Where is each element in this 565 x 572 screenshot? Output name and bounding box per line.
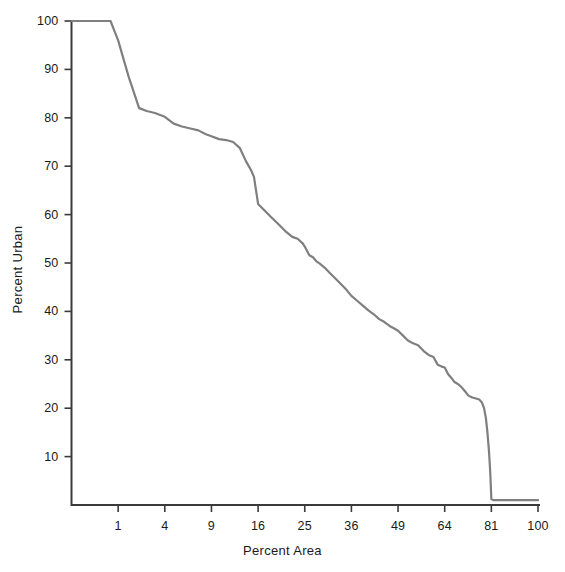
plot-canvas (0, 0, 565, 572)
x-tick-label: 100 (527, 519, 548, 533)
series-line-percent-urban (72, 21, 539, 500)
data-series-group (72, 21, 539, 500)
x-tick-label: 64 (438, 519, 452, 533)
axis-lines (72, 20, 541, 505)
x-tick-marks (118, 505, 538, 512)
y-tick-label: 30 (0, 353, 59, 367)
axis-spine (72, 20, 541, 505)
x-axis-title: Percent Area (0, 543, 565, 558)
x-tick-label: 49 (391, 519, 405, 533)
x-tick-label: 81 (484, 519, 498, 533)
y-tick-label: 70 (0, 159, 59, 173)
chart-figure: 102030405060708090100 149162536496481100… (0, 0, 565, 572)
x-tick-label: 9 (208, 519, 215, 533)
y-tick-marks (65, 21, 72, 457)
y-axis-title: Percent Urban (10, 210, 25, 330)
y-tick-label: 20 (0, 401, 59, 415)
y-tick-label: 80 (0, 111, 59, 125)
y-tick-label: 90 (0, 62, 59, 76)
x-tick-label: 1 (115, 519, 122, 533)
x-tick-label: 16 (251, 519, 265, 533)
x-tick-label: 25 (298, 519, 312, 533)
y-tick-label: 100 (0, 14, 59, 28)
x-tick-label: 4 (161, 519, 168, 533)
y-tick-label: 10 (0, 450, 59, 464)
x-tick-label: 36 (344, 519, 358, 533)
